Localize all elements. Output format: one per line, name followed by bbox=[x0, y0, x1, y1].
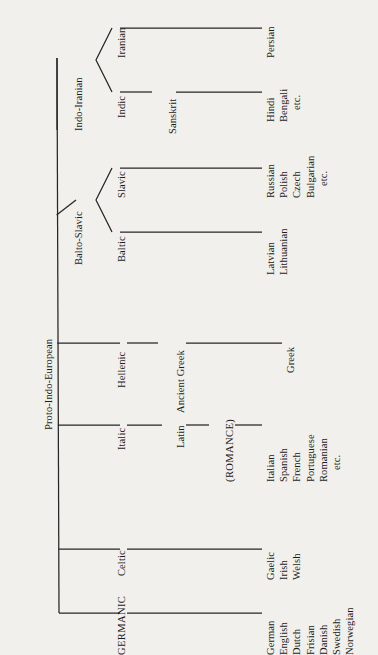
leaf-label: Swedish bbox=[332, 619, 343, 655]
node-hellenic: Hellenic bbox=[117, 352, 128, 388]
leaf-label: English bbox=[279, 622, 290, 655]
leaf-label: Italian bbox=[266, 454, 277, 482]
leaf-label: Hindi bbox=[266, 98, 277, 122]
node-ancient-greek: Ancient Greek bbox=[176, 350, 187, 413]
leaf-label: French bbox=[292, 452, 303, 482]
node-indo-iranian: Indo-Iranian bbox=[74, 77, 85, 131]
leaf-label: German bbox=[266, 621, 277, 655]
leaf-label: Norwegian bbox=[345, 607, 356, 655]
tree-connectors bbox=[0, 0, 378, 655]
node-celtic: Celtic bbox=[117, 550, 128, 576]
leaf-label: Romanian bbox=[319, 438, 330, 482]
leaf-label: etc. bbox=[292, 95, 303, 110]
node-latin: Latin bbox=[176, 425, 187, 448]
leaf-label: Frisian bbox=[306, 625, 317, 655]
node-baltic: Baltic bbox=[117, 236, 128, 262]
leaf-label: Czech bbox=[292, 171, 303, 198]
leaf-label: Irish bbox=[279, 560, 290, 580]
leaf-label: Dutch bbox=[292, 629, 303, 655]
node-indic: Indic bbox=[117, 96, 128, 118]
leaf-label: Lithuanian bbox=[279, 229, 290, 276]
node-proto-indo-european: Proto-Indo-European bbox=[44, 339, 55, 430]
leaf-label: Danish bbox=[319, 625, 330, 655]
node-iranian: Iranian bbox=[117, 28, 128, 58]
leaf-label: Polish bbox=[279, 171, 290, 198]
node-balto-slavic: Balto-Slavic bbox=[74, 211, 85, 265]
leaf-label: Spanish bbox=[279, 448, 290, 482]
node-sanskrit: Sanskrit bbox=[168, 99, 179, 134]
leaf-label: Latvian bbox=[266, 242, 277, 275]
leaf-label: Persian bbox=[266, 26, 277, 58]
node-romance: (ROMANCE) bbox=[225, 419, 236, 482]
figure-canvas: Proto-Indo-European GERMANIC Celtic Ital… bbox=[0, 0, 378, 655]
fork-balto-slavic bbox=[96, 168, 112, 232]
leaf-label: etc. bbox=[319, 171, 330, 186]
leaf-label: Bulgarian bbox=[306, 156, 317, 198]
node-germanic: GERMANIC bbox=[117, 596, 128, 655]
leaf-label: Bengali bbox=[279, 89, 290, 122]
leaf-label: Gaelic bbox=[266, 552, 277, 580]
leaf-label: Russian bbox=[266, 164, 277, 198]
leaf-label: Welsh bbox=[292, 554, 303, 580]
leaf-label: etc. bbox=[332, 455, 343, 470]
node-slavic: Slavic bbox=[117, 171, 128, 198]
node-italic: Italic bbox=[117, 428, 128, 450]
fork-indo-iranian bbox=[96, 28, 112, 92]
leaf-label: Greek bbox=[286, 347, 297, 373]
trunk-line bbox=[57, 58, 59, 613]
leaf-label: Portuguese bbox=[306, 434, 317, 482]
